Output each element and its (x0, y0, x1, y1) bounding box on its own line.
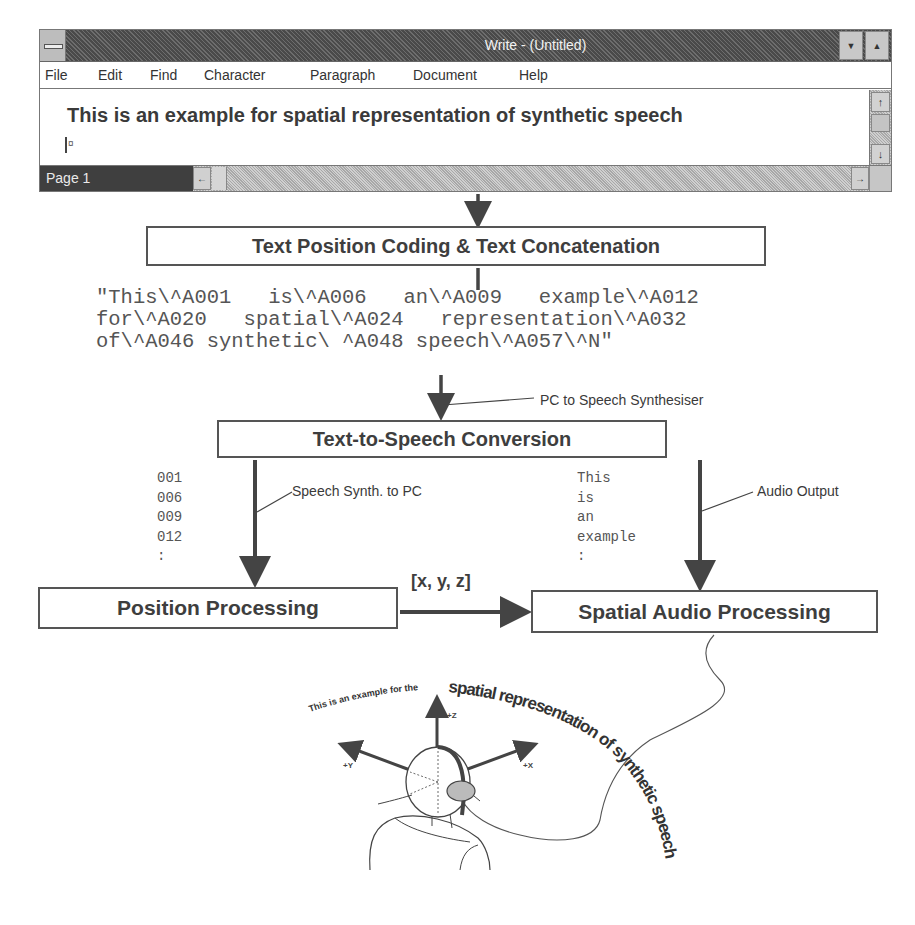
menu-file[interactable]: File (45, 62, 68, 89)
menu-help[interactable]: Help (519, 62, 548, 89)
minimize-button[interactable]: ▼ (839, 31, 863, 60)
word-value: : (577, 547, 636, 567)
text-position-coding-box: Text Position Coding & Text Concatenatio… (146, 226, 766, 266)
word-value: example (577, 528, 636, 548)
end-mark: ¤ (68, 138, 74, 149)
x-axis-arrow (465, 745, 533, 770)
scroll-up-arrow-icon[interactable]: ↑ (871, 92, 890, 112)
vertical-scrollbar[interactable]: ↑ ↓ (869, 90, 891, 166)
word-values-list: Thisisanexample: (577, 469, 636, 567)
position-value: 009 (157, 508, 182, 528)
text-to-speech-box: Text-to-Speech Conversion (217, 420, 667, 458)
window-title: Write - (Untitled) (40, 30, 831, 61)
position-values-list: 001006009012: (157, 469, 182, 567)
write-window: Write - (Untitled) ▼ ▲ File Edit Find Ch… (39, 29, 892, 192)
leader-audio-output (702, 492, 753, 511)
synth-to-pc-label: Speech Synth. to PC (292, 483, 422, 499)
coded-string: "This\^A001 is\^A006 an\^A009 example\^A… (96, 287, 699, 353)
spatial-audio-processing-box: Spatial Audio Processing (531, 590, 878, 633)
arc-text-large: spatial representation of synthetic spee… (448, 677, 681, 860)
position-value: 001 (157, 469, 182, 489)
menu-edit[interactable]: Edit (98, 62, 122, 89)
page-indicator: Page 1 (40, 166, 193, 191)
audio-output-label: Audio Output (757, 483, 839, 499)
document-area[interactable]: This is an example for spatial represent… (40, 90, 869, 166)
status-bar: Page 1 ← → (40, 165, 891, 191)
position-value: 006 (157, 489, 182, 509)
position-value: : (157, 547, 182, 567)
coded-line-3: of\^A046 synthetic\ ^A048 speech\^A057\^… (96, 331, 699, 353)
y-axis-label: +Y (343, 761, 354, 770)
menu-character[interactable]: Character (204, 62, 265, 89)
leader-pc-to-synth (443, 398, 534, 405)
word-value: This (577, 469, 636, 489)
word-value: is (577, 489, 636, 509)
z-axis-label: +Z (447, 711, 457, 720)
scroll-left-arrow-icon[interactable]: ← (193, 167, 211, 190)
maximize-button[interactable]: ▲ (865, 31, 889, 60)
coded-line-2: for\^A020 spatial\^A024 representation\^… (96, 309, 699, 331)
document-text[interactable]: This is an example for spatial represent… (67, 104, 683, 127)
arc-text-small: This is an example for the (307, 682, 418, 714)
y-axis-arrow (343, 745, 410, 770)
menu-paragraph[interactable]: Paragraph (310, 62, 375, 89)
position-processing-box: Position Processing (38, 587, 398, 629)
listener-head-icon (370, 747, 490, 870)
text-caret (65, 137, 67, 153)
horizontal-scroll-thumb[interactable] (212, 167, 227, 190)
title-bar[interactable]: Write - (Untitled) ▼ ▲ (40, 30, 891, 62)
menu-find[interactable]: Find (150, 62, 177, 89)
menu-bar: File Edit Find Character Paragraph Docum… (40, 62, 891, 89)
scrollbar-corner (869, 166, 891, 191)
coded-line-1: "This\^A001 is\^A006 an\^A009 example\^A… (96, 287, 699, 309)
word-value: an (577, 508, 636, 528)
coordinates-label: [x, y, z] (411, 571, 471, 592)
pc-to-synth-label: PC to Speech Synthesiser (540, 392, 703, 408)
position-value: 012 (157, 528, 182, 548)
vertical-scroll-thumb[interactable] (871, 114, 890, 132)
x-axis-label: +X (523, 761, 534, 770)
leader-synth-to-pc (257, 492, 292, 512)
scroll-down-arrow-icon[interactable]: ↓ (871, 144, 890, 164)
menu-document[interactable]: Document (413, 62, 477, 89)
scroll-right-arrow-icon[interactable]: → (851, 167, 869, 190)
headphone-cable (462, 635, 725, 840)
